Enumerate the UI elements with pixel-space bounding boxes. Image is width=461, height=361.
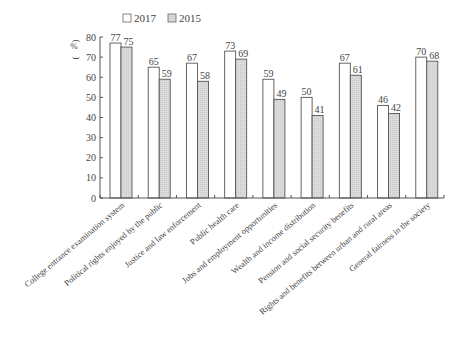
bar-2015 (427, 61, 438, 198)
bar-2015 (312, 115, 323, 198)
bar-2015 (159, 79, 170, 198)
bar-2017 (263, 79, 274, 198)
y-tick-label: 10 (86, 172, 96, 183)
bar-2017 (186, 63, 197, 198)
bar-group: 4642 (378, 94, 402, 198)
bar-value-label: 49 (276, 88, 286, 99)
svg-text:%: % (70, 41, 78, 51)
bar-group: 7775 (110, 32, 134, 198)
legend-swatch (123, 14, 131, 22)
bar-value-label: 70 (416, 46, 426, 57)
y-tick-label: 50 (86, 92, 96, 103)
y-tick-label: 30 (86, 132, 96, 143)
svg-text:): ) (72, 57, 82, 60)
bar-value-label: 42 (391, 102, 401, 113)
legend-item-2017: 2017 (123, 12, 157, 24)
legend-label: 2017 (134, 12, 157, 24)
legend-swatch (168, 14, 176, 22)
bar-value-label: 61 (353, 64, 363, 75)
bar-group: 7369 (225, 40, 249, 198)
bar-value-label: 41 (315, 104, 325, 115)
bar-2015 (121, 47, 132, 198)
bar-2015 (197, 81, 208, 198)
bar-value-label: 59 (263, 68, 273, 79)
bar-group: 7068 (416, 46, 440, 198)
y-tick-label: 80 (86, 32, 96, 43)
bar-2015 (389, 113, 400, 198)
bar-value-label: 73 (225, 40, 235, 51)
bar-2015 (236, 59, 247, 198)
bar-2015 (350, 75, 361, 198)
bar-group: 6758 (186, 52, 210, 198)
bar-2017 (378, 105, 389, 198)
x-tick-label: Justice and law enforcement (122, 199, 203, 269)
y-tick-label: 20 (86, 152, 96, 163)
bar-value-label: 77 (111, 32, 121, 43)
bar-2017 (148, 67, 159, 198)
bar-value-label: 67 (187, 52, 197, 63)
y-tick-label: 0 (91, 193, 96, 204)
bar-2017 (110, 43, 121, 198)
y-axis-label: (%) (70, 40, 82, 60)
bar-2015 (274, 99, 285, 198)
legend-item-2015: 2015 (168, 12, 202, 24)
bar-value-label: 75 (124, 36, 134, 47)
legend-label: 2015 (179, 12, 202, 24)
bar-value-label: 65 (149, 56, 159, 67)
bar-value-label: 68 (429, 50, 439, 61)
bar-2017 (339, 63, 350, 198)
y-axis: 01020304050607080(%) (70, 32, 103, 204)
bar-value-label: 46 (378, 94, 388, 105)
bar-chart: 20172015 01020304050607080(%) 7775655967… (0, 0, 461, 361)
bar-2017 (301, 97, 312, 198)
bar-2017 (225, 51, 236, 198)
bar-group: 5949 (263, 68, 287, 198)
bar-group: 5041 (301, 86, 325, 198)
bar-group: 6559 (148, 56, 172, 198)
bar-value-label: 69 (238, 48, 248, 59)
x-axis: College entrance examination systemPolit… (22, 195, 444, 317)
y-tick-label: 70 (86, 52, 96, 63)
bar-value-label: 50 (302, 86, 312, 97)
bar-value-label: 59 (162, 68, 172, 79)
bar-2017 (416, 57, 427, 198)
y-tick-label: 60 (86, 72, 96, 83)
y-tick-label: 40 (86, 112, 96, 123)
bar-value-label: 67 (340, 52, 350, 63)
bars: 777565596758736959495041676146427068 (110, 32, 439, 198)
x-tick-label: Rights and benefits between urban and ru… (257, 200, 393, 317)
bar-value-label: 58 (200, 70, 210, 81)
bar-group: 6761 (339, 52, 363, 198)
legend: 20172015 (123, 12, 202, 24)
